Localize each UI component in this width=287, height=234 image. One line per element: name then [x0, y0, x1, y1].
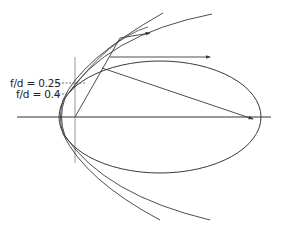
ray-to-second-focus: [102, 68, 253, 119]
upper-reflected-ray: [120, 33, 150, 38]
parabola-inner-arc: [70, 27, 148, 92]
reflector-diagram: [0, 0, 287, 234]
label-fd-04: f/d = 0.4: [16, 88, 60, 100]
